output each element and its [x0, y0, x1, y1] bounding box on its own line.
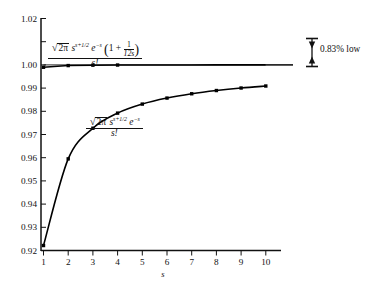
x-tick-label: 10 [261, 257, 271, 267]
data-point-marker [116, 111, 119, 114]
e-exponent: −s [133, 116, 139, 122]
y-tick-label: 1.00 [21, 60, 37, 70]
x-tick-label: 7 [189, 257, 194, 267]
one-term: 1 [109, 43, 114, 53]
x-tick-label: 8 [214, 257, 219, 267]
y-axis-labels: 1.02 1.00 0.99 0.98 0.97 0.96 0.95 0.94 … [21, 14, 37, 256]
data-point-marker [42, 66, 45, 69]
arrow-down-icon [309, 57, 315, 64]
x-tick-label: 3 [91, 257, 96, 267]
x-tick-label: 9 [239, 257, 244, 267]
y-tick-label: 0.98 [21, 106, 37, 116]
arrow-up-icon [309, 42, 315, 49]
x-tick-label: 4 [115, 257, 120, 267]
percent-low-label: 0.83% low [320, 44, 360, 54]
radicand: 2π [57, 43, 69, 54]
y-tick-label: 0.95 [21, 176, 37, 186]
data-point-marker [165, 96, 168, 99]
x-tick-label: 5 [140, 257, 145, 267]
paren-close: ) [134, 42, 139, 57]
denominator-factorial: s! [48, 59, 142, 69]
data-point-marker [67, 157, 70, 160]
y-tick-label: 0.93 [21, 222, 37, 232]
exponent: s+1/2 [75, 42, 89, 48]
series-plain-stirling-markers [42, 84, 268, 247]
x-axis-title: s [161, 269, 165, 279]
formula-corrected-stirling: √2π ss+1/2 e−s (1 + 112s) s! [48, 41, 142, 68]
y-tick-label: 0.99 [21, 83, 37, 93]
radicand: 2π [95, 117, 107, 128]
plus-sign: + [116, 43, 121, 53]
x-axis-labels: 1 2 3 4 5 6 7 8 9 10 [41, 257, 271, 267]
y-tick-label: 0.94 [21, 199, 37, 209]
exponent: s+1/2 [113, 116, 127, 122]
data-point-marker [141, 102, 144, 105]
denominator-factorial: s! [86, 129, 143, 139]
correction-denominator: 12s [124, 50, 135, 58]
data-point-marker [215, 89, 218, 92]
y-tick-label: 0.97 [21, 130, 37, 140]
x-tick-label: 6 [165, 257, 170, 267]
y-tick-label: 0.92 [21, 246, 37, 256]
y-tick-label: 1.02 [21, 14, 37, 24]
formula-plain-stirling: √2π ss+1/2 e−s s! [86, 117, 143, 138]
y-tick-label: 0.96 [21, 153, 37, 163]
data-point-marker [239, 86, 242, 89]
data-point-marker [264, 84, 267, 87]
data-point-marker [42, 244, 45, 247]
series-plain-stirling-line [44, 86, 266, 246]
data-point-marker [190, 92, 193, 95]
error-bar-annotation [306, 39, 318, 67]
e-exponent: −s [95, 42, 101, 48]
x-tick-label: 2 [66, 257, 71, 267]
x-tick-label: 1 [41, 257, 46, 267]
